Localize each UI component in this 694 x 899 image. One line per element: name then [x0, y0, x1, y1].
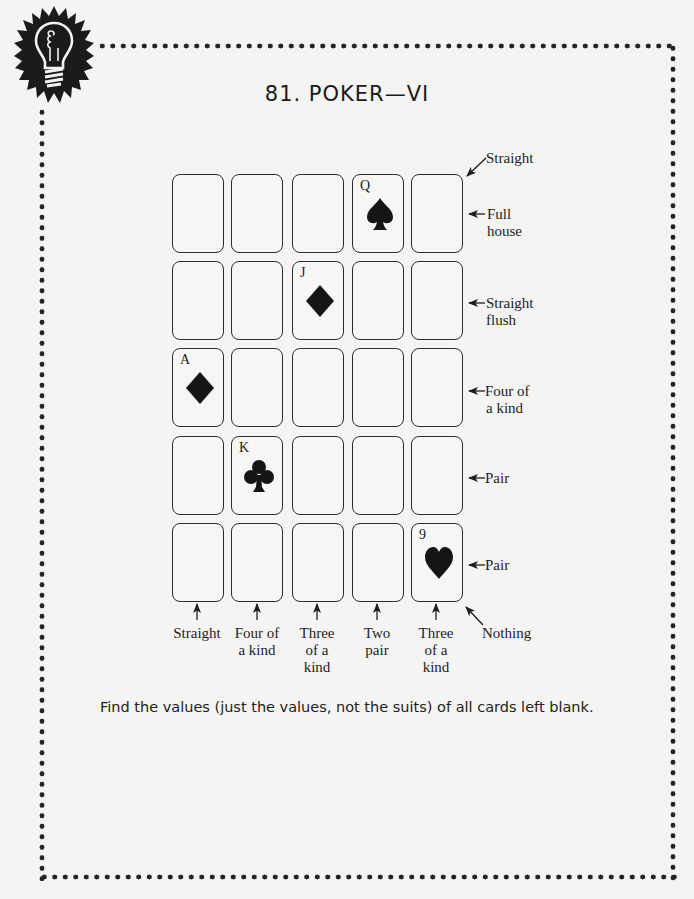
column-label-5-line3: kind [401, 659, 471, 676]
row-label-1-line2: house [487, 223, 522, 240]
card-blank [231, 261, 283, 340]
heart-icon [424, 546, 454, 580]
dotted-border-top [97, 43, 677, 49]
row-label-4-line1: Pair [485, 470, 509, 487]
card-blank [292, 348, 344, 427]
row-label-3-line1: Four of [485, 383, 530, 400]
column-label-5-line1: Three [401, 625, 471, 642]
card-q-of-spades: Q [352, 174, 404, 253]
card-blank [352, 261, 404, 340]
club-icon [244, 459, 274, 493]
card-rank: A [180, 352, 190, 368]
spade-icon [365, 197, 395, 231]
card-rank: K [239, 440, 249, 456]
card-blank [411, 436, 463, 515]
row-label-3: Four of a kind [485, 383, 530, 417]
diamond-icon [305, 284, 335, 318]
dotted-border-left [39, 107, 45, 881]
card-blank [411, 348, 463, 427]
card-blank [172, 436, 224, 515]
row-label-4: Pair [485, 470, 509, 487]
card-rank: Q [360, 178, 370, 194]
card-blank [352, 523, 404, 602]
card-blank [292, 174, 344, 253]
row-label-2-line1: Straight [486, 295, 534, 312]
page-title: 81. POKER—VI [0, 82, 694, 106]
column-label-5-line2: of a [401, 642, 471, 659]
card-blank [411, 261, 463, 340]
card-k-of-clubs: K [231, 436, 283, 515]
instruction-text: Find the values (just the values, not th… [100, 699, 594, 715]
row-label-2: Straight flush [486, 295, 534, 329]
row-label-5: Pair [485, 557, 509, 574]
card-blank [172, 523, 224, 602]
card-blank [172, 261, 224, 340]
label-arrows [0, 0, 694, 899]
card-blank [231, 523, 283, 602]
diagonal-label-top-right: Straight [486, 150, 534, 167]
card-rank: J [300, 265, 305, 281]
card-blank [352, 436, 404, 515]
card-blank [352, 348, 404, 427]
card-rank: 9 [419, 527, 426, 543]
column-label-3-line3: kind [282, 659, 352, 676]
card-9-of-hearts: 9 [411, 523, 463, 602]
card-blank [292, 436, 344, 515]
card-j-of-diamonds: J [292, 261, 344, 340]
row-label-1-line1: Full [487, 206, 522, 223]
row-label-2-line2: flush [486, 312, 534, 329]
row-label-1: Full house [487, 206, 522, 240]
card-blank [172, 174, 224, 253]
diagonal-label-bottom-right: Nothing [482, 625, 531, 642]
card-a-of-diamonds: A [172, 348, 224, 427]
dotted-border-bottom [39, 874, 677, 880]
row-label-3-line2: a kind [485, 400, 530, 417]
card-blank [231, 174, 283, 253]
dotted-border-right [670, 43, 676, 881]
card-blank [292, 523, 344, 602]
diamond-icon [185, 371, 215, 405]
column-label-5: Three of a kind [401, 625, 471, 676]
card-blank [411, 174, 463, 253]
row-label-5-line1: Pair [485, 557, 509, 574]
card-blank [231, 348, 283, 427]
